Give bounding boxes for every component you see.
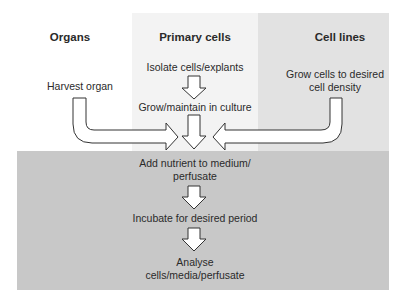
down-arrow-icon [182, 76, 206, 99]
diagram: Organs Primary cells Cell lines Harvest … [0, 0, 406, 305]
curved-arrow-icon [73, 98, 178, 150]
down-arrow-icon [182, 186, 206, 209]
down-arrow-icon [182, 115, 206, 149]
down-arrow-icon [182, 228, 206, 251]
arrows-layer [0, 0, 406, 305]
curved-arrow-icon [213, 98, 342, 150]
